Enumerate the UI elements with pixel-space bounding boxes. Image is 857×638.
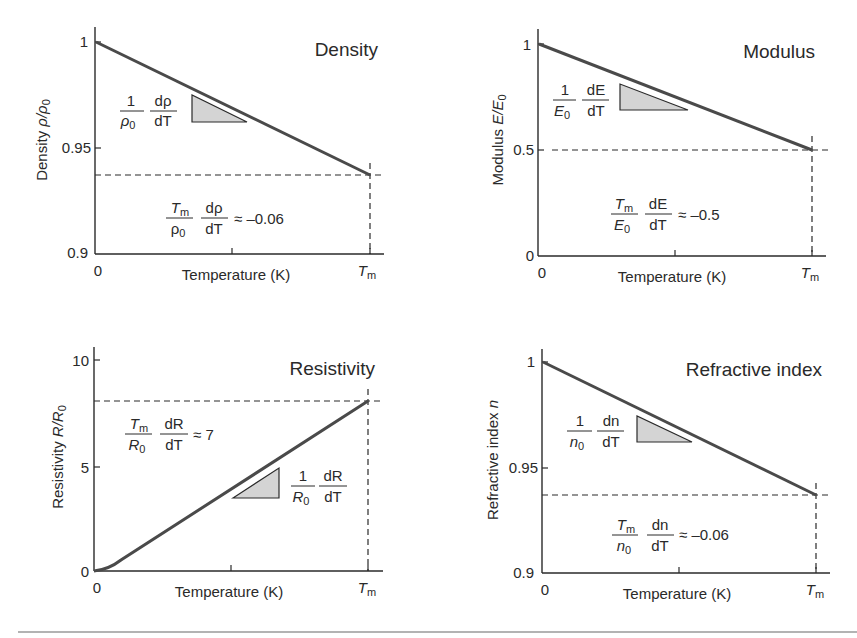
svg-text:dE: dE [587, 81, 605, 98]
panel-title: Refractive index [686, 359, 823, 380]
panel-refractive-index: 1 0.95 0.9 0 Tm Temperature (K) Refracti… [484, 349, 830, 602]
svg-text:dT: dT [205, 220, 223, 237]
x-tick-label-zero: 0 [93, 579, 101, 596]
svg-text:E0: E0 [614, 216, 630, 235]
x-axis-label: Temperature (K) [182, 266, 290, 283]
data-line [96, 42, 370, 175]
y-tick-label: 1 [80, 33, 88, 50]
svg-text:dT: dT [154, 112, 172, 129]
svg-text:dE: dE [649, 195, 667, 212]
result-formula: Tm R0 dR dT ≈ 7 [125, 415, 214, 455]
slope-formula: 1 R0 dR dT [291, 467, 347, 507]
y-tick-label: 0.9 [513, 564, 534, 581]
svg-text:1: 1 [561, 81, 569, 98]
x-tick-label-zero: 0 [541, 581, 549, 598]
x-axis-label: Temperature (K) [623, 585, 731, 602]
svg-text:dρ: dρ [206, 199, 223, 216]
svg-text:n0: n0 [570, 433, 584, 452]
slope-formula: 1 n0 dn dT [567, 412, 624, 452]
y-tick-label: 0 [81, 563, 89, 580]
svg-text:1: 1 [299, 467, 307, 484]
x-tick-label-zero: 0 [94, 262, 102, 279]
svg-text:1: 1 [576, 412, 584, 429]
y-tick-label: 0.95 [62, 139, 91, 156]
slope-triangle [192, 95, 247, 122]
svg-text:dρ: dρ [155, 92, 172, 109]
result-formula: Tm n0 dn dT ≈ –0.06 [612, 516, 729, 556]
slope-formula: 1 ρ0 dρ dT [120, 92, 177, 131]
panel-title: Density [315, 39, 379, 60]
panel-title: Resistivity [289, 358, 375, 379]
y-tick-label: 1 [527, 353, 535, 370]
result-formula: Tm ρ0 dρ dT ≈ –0.06 [166, 199, 284, 239]
result-formula: Tm E0 dE dT ≈ –0.5 [611, 195, 720, 235]
svg-text:dT: dT [649, 216, 667, 233]
svg-text:dT: dT [651, 537, 669, 554]
svg-text:n0: n0 [617, 537, 631, 556]
svg-text:dT: dT [324, 488, 342, 505]
svg-text:≈ 7: ≈ 7 [193, 426, 214, 443]
svg-text:dn: dn [652, 516, 669, 533]
y-tick-label: 5 [81, 459, 89, 476]
svg-text:E0: E0 [554, 102, 570, 121]
y-tick-label: 0.9 [67, 244, 88, 261]
x-tick-label-tm: Tm [358, 262, 376, 281]
svg-text:R0: R0 [293, 488, 310, 507]
svg-text:1: 1 [127, 92, 135, 109]
x-axis-label: Temperature (K) [618, 268, 726, 285]
y-tick-label: 0 [526, 247, 534, 264]
y-axis-label: Refractive index n [484, 400, 501, 520]
svg-text:R0: R0 [129, 436, 146, 455]
svg-text:≈ –0.06: ≈ –0.06 [679, 526, 729, 543]
panel-resistivity: 10 5 0 0 Tm Temperature (K) Resistivity … [49, 347, 383, 600]
svg-text:dT: dT [587, 102, 605, 119]
figure-canvas: 1 0.95 0.9 0 Tm Temperature (K) Density … [0, 0, 857, 638]
y-tick-label: 10 [72, 352, 89, 369]
svg-text:dR: dR [164, 415, 183, 432]
svg-text:dR: dR [323, 467, 342, 484]
svg-text:ρ0: ρ0 [120, 112, 136, 131]
y-tick-label: 0.95 [509, 459, 538, 476]
panel-density: 1 0.95 0.9 0 Tm Temperature (K) Density … [33, 27, 384, 283]
x-tick-label-tm: Tm [358, 579, 376, 598]
svg-text:Tm: Tm [615, 195, 633, 214]
svg-text:≈ –0.06: ≈ –0.06 [234, 210, 284, 227]
y-axis-label: Resistivity R/R0 [49, 405, 68, 509]
x-tick-label-zero: 0 [538, 264, 546, 281]
svg-text:dn: dn [603, 412, 620, 429]
svg-text:Tm: Tm [617, 516, 635, 535]
svg-text:≈ –0.5: ≈ –0.5 [678, 206, 720, 223]
svg-text:Tm: Tm [171, 199, 189, 218]
slope-formula: 1 E0 dE dT [553, 81, 609, 121]
panel-title: Modulus [743, 41, 815, 62]
y-tick-label: 1 [523, 36, 531, 53]
x-tick-label-tm: Tm [801, 264, 819, 283]
svg-text:dT: dT [602, 433, 620, 450]
x-tick-label-tm: Tm [806, 581, 824, 600]
y-tick-label: 0.5 [513, 141, 534, 158]
x-axis-label: Temperature (K) [175, 583, 283, 600]
svg-text:dT: dT [165, 436, 183, 453]
svg-text:Tm: Tm [130, 415, 148, 434]
panel-modulus: 1 0.5 0 0 Tm Temperature (K) Modulus E/E… [489, 29, 830, 285]
svg-text:ρ0: ρ0 [171, 220, 186, 239]
y-axis-label: Density ρ/ρ0 [33, 99, 52, 181]
y-axis-label: Modulus E/E0 [489, 94, 508, 185]
